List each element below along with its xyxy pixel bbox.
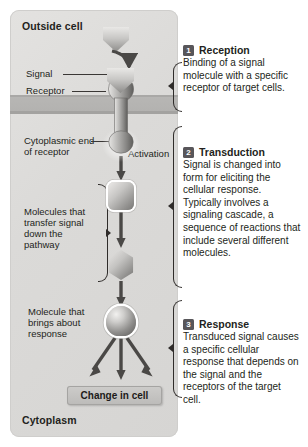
leader-line-signal (63, 74, 108, 75)
step-reception-number: 1 (183, 45, 194, 56)
step-transduction-header: 2 Transduction (183, 146, 301, 158)
brace-step-response (173, 300, 182, 398)
brace-step-transduction (173, 126, 182, 288)
step-response-number: 3 (183, 319, 194, 330)
label-signal: Signal (26, 68, 52, 79)
label-molecules-that-transfer-signal: Molecules that transfer signal down the … (24, 206, 96, 250)
label-molecule-brings-about-response: Molecule that brings about response (28, 306, 98, 339)
signal-transduction-diagram: Outside cell Cytoplasm Si (10, 10, 178, 437)
label-outside-cell: Outside cell (22, 20, 83, 32)
step-reception-title: Reception (199, 44, 250, 56)
step-reception-body: Binding of a signal molecule with a spec… (183, 57, 301, 95)
brace-tip-reception (168, 82, 173, 90)
brace-tip-response (168, 344, 173, 352)
step-transduction: 2 Transduction Signal is changed into fo… (183, 146, 301, 260)
signal-transfer-molecule-1 (108, 182, 134, 210)
arrow-molecule-1-to-molecule-2 (115, 212, 129, 250)
step-response-body: Transduced signal causes a specific cell… (183, 331, 301, 407)
signal-transfer-molecule-2 (107, 250, 135, 280)
step-transduction-body: Signal is changed into form for elicitin… (183, 159, 301, 260)
leader-line-receptor (72, 91, 106, 92)
change-in-cell-box: Change in cell (67, 386, 162, 405)
brace-tip-signal-transfer (106, 229, 111, 237)
change-in-cell-label: Change in cell (81, 390, 149, 401)
plasma-membrane (10, 95, 178, 114)
response-fan-arrows (65, 336, 170, 388)
response-molecule (106, 306, 136, 336)
brace-tip-transduction (168, 202, 173, 210)
step-response-header: 3 Response (183, 318, 301, 330)
step-transduction-title: Transduction (199, 146, 265, 158)
signal-molecule-free (103, 27, 129, 52)
step-transduction-number: 2 (183, 147, 194, 158)
step-reception-header: 1 Reception (183, 44, 301, 56)
step-reception: 1 Reception Binding of a signal molecule… (183, 44, 301, 95)
arrow-molecule-2-to-response-molecule (115, 281, 129, 309)
step-response-title: Response (199, 318, 249, 330)
steps-column: 1 Reception Binding of a signal molecule… (183, 0, 308, 447)
label-cytoplasmic-end-of-receptor: Cytoplasmic end of receptor (24, 135, 100, 157)
brace-step-reception (173, 62, 182, 112)
step-response: 3 Response Transduced signal causes a sp… (183, 318, 301, 407)
label-receptor: Receptor (26, 85, 65, 96)
label-cytoplasm: Cytoplasm (22, 414, 77, 426)
